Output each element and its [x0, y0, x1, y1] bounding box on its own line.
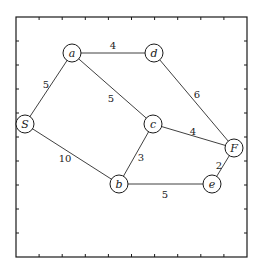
edge-c-b — [119, 124, 153, 184]
edge-S-b — [25, 124, 119, 184]
node-label: c — [150, 118, 156, 131]
edge-weight-label: 5 — [43, 79, 49, 90]
edge-weight-label: 3 — [138, 152, 144, 163]
node-d: d — [145, 44, 163, 62]
edge-weight-label: 5 — [108, 93, 114, 104]
node-label: F — [229, 142, 238, 155]
node-b: b — [110, 175, 128, 193]
edge-weight-label: 10 — [59, 153, 72, 164]
edge-a-c — [72, 53, 153, 124]
node-label: d — [150, 47, 157, 60]
edge-weight-label: 4 — [110, 40, 116, 51]
node-a: a — [63, 44, 81, 62]
node-c: c — [144, 115, 162, 133]
edge-weight-label: 5 — [162, 189, 168, 200]
edge-weight-label: 6 — [194, 89, 200, 100]
edge-weights: 4556410352 — [43, 40, 222, 200]
node-F: F — [225, 139, 243, 157]
graph-diagram: 4556410352 adScFbe — [0, 0, 262, 272]
edges — [25, 53, 234, 184]
edge-weight-label: 2 — [216, 160, 222, 171]
edge-weight-label: 4 — [190, 126, 196, 137]
node-e: e — [203, 175, 221, 193]
node-label: a — [69, 47, 76, 60]
node-label: b — [115, 178, 122, 191]
node-S: S — [16, 115, 34, 133]
node-label: S — [21, 118, 29, 131]
node-label: e — [209, 178, 216, 191]
